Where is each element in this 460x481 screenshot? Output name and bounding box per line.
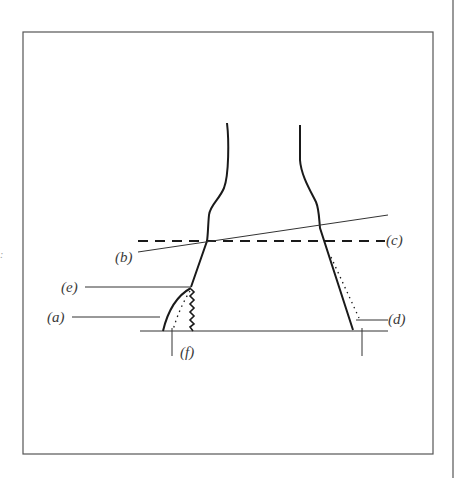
hoof-back-wall bbox=[300, 125, 353, 330]
slanted-line-b bbox=[138, 215, 388, 252]
zigzag-line bbox=[190, 289, 194, 331]
hoof-front-wall bbox=[191, 123, 228, 287]
figure-frame bbox=[23, 32, 433, 454]
toe-dotted-curve bbox=[173, 291, 190, 330]
hoof-diagram: : (b) (c) (e) (a) (d) (f) bbox=[0, 0, 460, 481]
label-e: (e) bbox=[61, 279, 78, 296]
label-b: (b) bbox=[115, 249, 133, 266]
label-d: (d) bbox=[388, 311, 406, 328]
label-c: (c) bbox=[386, 232, 403, 249]
stray-mark: : bbox=[0, 249, 3, 260]
label-f: (f) bbox=[180, 344, 194, 361]
heel-dotted-line bbox=[331, 257, 359, 318]
label-a: (a) bbox=[47, 309, 65, 326]
toe-flare-curve bbox=[163, 288, 191, 331]
